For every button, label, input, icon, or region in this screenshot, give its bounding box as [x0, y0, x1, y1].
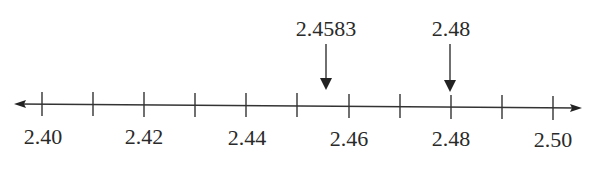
- arrow-down-icon: [444, 80, 456, 92]
- tick-label: 2.44: [228, 127, 267, 149]
- tick-label: 2.50: [534, 129, 573, 151]
- arrow-down-icon: [320, 78, 332, 90]
- tick-label: 2.46: [330, 128, 369, 150]
- axis-line: [18, 104, 578, 108]
- marker-label: 2.4583: [296, 18, 357, 40]
- tick-label: 2.42: [125, 126, 164, 148]
- tick-label: 2.40: [24, 126, 63, 148]
- marker-label: 2.48: [432, 18, 471, 40]
- tick-label: 2.48: [432, 128, 471, 150]
